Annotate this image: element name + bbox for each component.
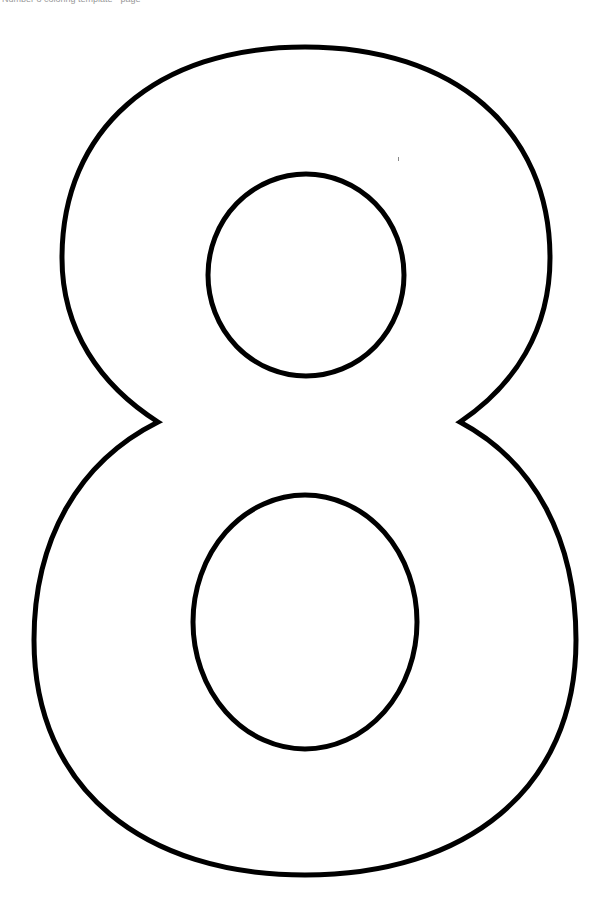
upper-counter [208,174,404,376]
stray-mark [398,157,399,161]
number-eight-outline [0,0,609,912]
lower-counter [193,495,417,749]
